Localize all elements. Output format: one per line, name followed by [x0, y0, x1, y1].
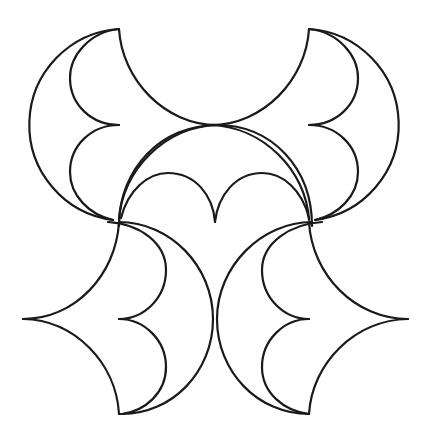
- center-arch: [119, 125, 312, 226]
- bottom-right-arrowhead: [217, 222, 408, 414]
- top-right-crescent: [211, 29, 399, 220]
- bottom-left-arrowhead: [23, 222, 213, 414]
- line-art-canvas: [0, 0, 434, 438]
- top-left-crescent: [29, 29, 217, 220]
- center-heart-scallops: [121, 173, 309, 222]
